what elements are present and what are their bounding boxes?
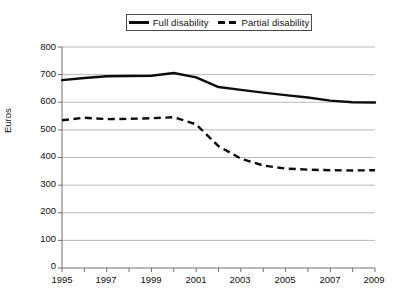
x-axis-tick-marks: [62, 268, 375, 272]
series-line-full-disability: [62, 73, 375, 103]
disability-benefit-line-chart: Full disability Partial disability Euros…: [0, 0, 397, 303]
series-line-partial-disability: [62, 117, 375, 170]
plot-area: [0, 0, 397, 303]
